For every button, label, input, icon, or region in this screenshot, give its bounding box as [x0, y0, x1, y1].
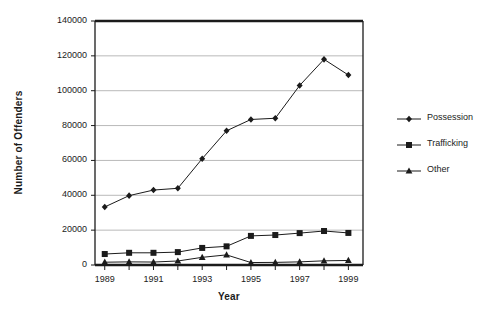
y-tick-label: 120000 [31, 50, 87, 60]
chart-container: Number of Offenders Year 020000400006000… [0, 0, 478, 317]
y-tick-label: 0 [31, 259, 87, 269]
x-tick-label: 1997 [280, 274, 320, 284]
chart-legend: PossessionTraffickingOther [396, 104, 473, 182]
x-tick-label: 1989 [85, 274, 125, 284]
legend-item-label: Trafficking [427, 138, 468, 148]
legend-item-trafficking[interactable]: Trafficking [396, 130, 473, 156]
y-tick-label: 140000 [31, 15, 87, 25]
y-tick-label: 80000 [31, 120, 87, 130]
square-marker-icon [396, 137, 422, 149]
y-tick-label: 40000 [31, 189, 87, 199]
x-tick-label: 1995 [231, 274, 271, 284]
legend-item-possession[interactable]: Possession [396, 104, 473, 130]
legend-item-other[interactable]: Other [396, 156, 473, 182]
y-tick-label: 60000 [31, 154, 87, 164]
diamond-marker-icon [396, 111, 422, 123]
y-tick-label: 100000 [31, 85, 87, 95]
y-tick-label: 20000 [31, 224, 87, 234]
triangle-marker-icon [396, 163, 422, 175]
x-tick-label: 1991 [133, 274, 173, 284]
gridlines [95, 56, 363, 230]
x-tick-label: 1999 [328, 274, 368, 284]
x-tick-label: 1993 [182, 274, 222, 284]
legend-item-label: Possession [427, 112, 473, 122]
legend-item-label: Other [427, 164, 450, 174]
